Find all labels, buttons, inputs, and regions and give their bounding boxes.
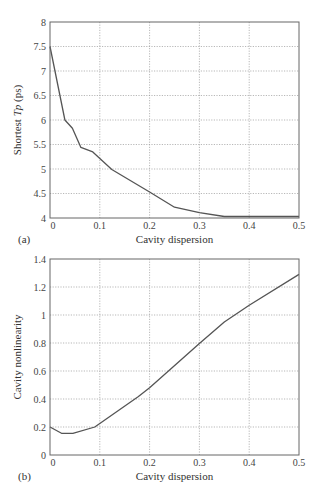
x-tick-label: 0.3 (193, 220, 206, 231)
figure: 00.10.20.30.40.5 44.555.566.577.58 Cavit… (0, 0, 323, 499)
y-tick-label: 4 (41, 213, 46, 224)
x-tick-label: 0.4 (243, 220, 256, 231)
grid-lines (50, 22, 299, 218)
y-axis-label: Cavity nonlinearity (11, 314, 23, 400)
panel-a-chart: 00.10.20.30.40.5 44.555.566.577.58 Cavit… (11, 17, 305, 247)
y-label-unit: (ps) (11, 85, 24, 105)
x-tick-label: 0.1 (94, 220, 107, 231)
cavity-nonlinearity-curve (50, 274, 299, 433)
x-tick-label: 0.3 (193, 457, 206, 468)
y-tick-label: 4.5 (34, 188, 47, 199)
x-tick-label: 0.1 (94, 457, 107, 468)
x-tick-label: 0.4 (243, 457, 256, 468)
x-tick-label: 0.5 (293, 220, 306, 231)
panel-label-a: (a) (18, 233, 31, 246)
y-label-symbol: Tp (11, 104, 23, 116)
y-tick-label: 0.4 (34, 394, 47, 405)
x-tick-label: 0 (51, 457, 56, 468)
y-tick-label: 1 (41, 310, 46, 321)
y-tick-label: 0.6 (34, 366, 47, 377)
plot-frame (50, 259, 299, 455)
y-tick-label: 0.8 (34, 338, 47, 349)
y-tick-label: 0.2 (34, 422, 47, 433)
y-tick-label: 1.2 (34, 282, 47, 293)
shortest-tp-curve (50, 47, 299, 217)
y-tick-label: 1.4 (34, 254, 47, 265)
x-axis-label: Cavity dispersion (136, 233, 214, 245)
x-tick-labels: 00.10.20.30.40.5 (51, 220, 306, 231)
x-tick-labels: 00.10.20.30.40.5 (51, 457, 306, 468)
panel-b-chart: 00.10.20.30.40.5 00.20.40.60.811.21.4 Ca… (11, 254, 305, 484)
y-tick-label: 7.5 (34, 41, 47, 52)
y-tick-labels: 00.20.40.60.811.21.4 (34, 254, 47, 461)
grid-lines (50, 259, 299, 455)
x-axis-label: Cavity dispersion (136, 470, 214, 482)
y-label-prefix: Shortest (11, 116, 23, 155)
panel-label-b: (b) (18, 470, 31, 483)
x-tick-label: 0.2 (143, 220, 156, 231)
x-tick-label: 0 (51, 220, 56, 231)
y-tick-label: 5 (41, 164, 46, 175)
y-tick-label: 7 (41, 66, 46, 77)
x-tick-label: 0.2 (143, 457, 156, 468)
y-tick-label: 5.5 (34, 139, 47, 150)
y-tick-label: 6 (41, 115, 46, 126)
x-tick-label: 0.5 (293, 457, 306, 468)
y-tick-label: 0 (41, 450, 46, 461)
y-tick-label: 8 (41, 17, 46, 28)
y-axis-label: Shortest Tp (ps) (11, 85, 24, 156)
y-tick-labels: 44.555.566.577.58 (34, 17, 47, 224)
y-tick-label: 6.5 (34, 90, 47, 101)
